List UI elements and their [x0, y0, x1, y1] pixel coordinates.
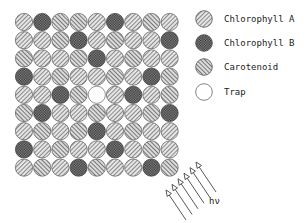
chlorophyll-a-molecule	[125, 141, 142, 158]
chlorophyll-a-swatch-icon	[196, 11, 213, 28]
chlorophyll-b-molecule	[161, 32, 178, 49]
chlorophyll-a-molecule	[143, 86, 160, 103]
chlorophyll-a-molecule	[15, 123, 32, 140]
light-arrow-icon	[190, 168, 210, 198]
chlorophyll-a-molecule	[52, 123, 69, 140]
chlorophyll-b-molecule	[34, 104, 51, 121]
carotenoid-molecule	[161, 86, 178, 103]
carotenoid-molecule	[88, 159, 105, 176]
light-arrow-icon	[196, 162, 216, 192]
chlorophyll-a-molecule	[52, 104, 69, 121]
chlorophyll-a-molecule	[88, 13, 105, 30]
chlorophyll-a-molecule	[88, 141, 105, 158]
chlorophyll-b-molecule	[70, 159, 87, 176]
chlorophyll-b-molecule	[106, 141, 123, 158]
light-arrow-icon	[184, 173, 204, 203]
trap-molecule	[88, 86, 105, 103]
legend-item-chlorophyll-b: Chlorophyll B	[196, 35, 295, 52]
chlorophyll-a-molecule	[161, 13, 178, 30]
legend-label: Carotenoid	[224, 62, 278, 72]
carotenoid-molecule	[161, 68, 178, 85]
chlorophyll-a-molecule	[15, 159, 32, 176]
chlorophyll-a-molecule	[34, 68, 51, 85]
chlorophyll-b-molecule	[88, 50, 105, 67]
chlorophyll-a-molecule	[106, 123, 123, 140]
chlorophyll-a-molecule	[106, 159, 123, 176]
legend: Chlorophyll A Chlorophyll B Carotenoid T…	[196, 11, 295, 101]
carotenoid-molecule	[125, 50, 142, 67]
chlorophyll-a-molecule	[125, 68, 142, 85]
chlorophyll-b-molecule	[106, 13, 123, 30]
chlorophyll-a-molecule	[15, 13, 32, 30]
carotenoid-molecule	[34, 123, 51, 140]
chlorophyll-a-molecule	[161, 141, 178, 158]
carotenoid-molecule	[15, 104, 32, 121]
carotenoid-molecule	[88, 104, 105, 121]
pigment-grid	[15, 13, 178, 176]
legend-label: Chlorophyll A	[224, 14, 295, 24]
chlorophyll-a-molecule	[88, 32, 105, 49]
chlorophyll-a-molecule	[15, 86, 32, 103]
trap-swatch-icon	[196, 84, 213, 101]
carotenoid-molecule	[70, 13, 87, 30]
chlorophyll-b-molecule	[15, 141, 32, 158]
chlorophyll-a-molecule	[106, 50, 123, 67]
chlorophyll-a-molecule	[143, 50, 160, 67]
chlorophyll-a-molecule	[70, 68, 87, 85]
carotenoid-molecule	[52, 141, 69, 158]
light-arrow-icon	[178, 179, 198, 209]
carotenoid-molecule	[125, 123, 142, 140]
chlorophyll-b-molecule	[52, 86, 69, 103]
chlorophyll-b-molecule	[143, 68, 160, 85]
chlorophyll-b-molecule	[143, 159, 160, 176]
chlorophyll-a-molecule	[125, 159, 142, 176]
carotenoid-molecule	[106, 32, 123, 49]
carotenoid-molecule	[143, 104, 160, 121]
carotenoid-molecule	[161, 159, 178, 176]
chlorophyll-b-molecule	[70, 32, 87, 49]
legend-item-carotenoid: Carotenoid	[196, 59, 278, 76]
chlorophyll-b-molecule	[34, 13, 51, 30]
chlorophyll-a-molecule	[15, 32, 32, 49]
carotenoid-molecule	[52, 68, 69, 85]
chlorophyll-a-molecule	[34, 141, 51, 158]
chlorophyll-a-molecule	[125, 13, 142, 30]
chlorophyll-a-molecule	[52, 159, 69, 176]
chlorophyll-b-molecule	[88, 123, 105, 140]
chlorophyll-b-molecule	[15, 68, 32, 85]
chlorophyll-a-molecule	[34, 32, 51, 49]
carotenoid-molecule	[70, 123, 87, 140]
chlorophyll-a-molecule	[34, 50, 51, 67]
carotenoid-molecule	[70, 50, 87, 67]
light-label: hν	[209, 196, 220, 206]
legend-item-chlorophyll-a: Chlorophyll A	[196, 11, 295, 28]
carotenoid-molecule	[143, 13, 160, 30]
photosynthetic-unit-diagram: Chlorophyll A Chlorophyll B Carotenoid T…	[0, 0, 307, 223]
chlorophyll-a-molecule	[125, 32, 142, 49]
chlorophyll-a-molecule	[70, 141, 87, 158]
light-arrow-icon	[172, 184, 192, 214]
chlorophyll-b-swatch-icon	[196, 35, 213, 52]
legend-label: Chlorophyll B	[224, 38, 294, 48]
legend-item-trap: Trap	[196, 84, 246, 101]
carotenoid-molecule	[34, 159, 51, 176]
legend-label: Trap	[224, 87, 246, 97]
light-arrow-icon	[166, 190, 186, 220]
chlorophyll-a-molecule	[161, 50, 178, 67]
chlorophyll-a-molecule	[70, 104, 87, 121]
carotenoid-swatch-icon	[196, 59, 213, 76]
chlorophyll-a-molecule	[106, 86, 123, 103]
chlorophyll-a-molecule	[143, 32, 160, 49]
carotenoid-molecule	[52, 13, 69, 30]
chlorophyll-b-molecule	[161, 104, 178, 121]
carotenoid-molecule	[15, 50, 32, 67]
chlorophyll-a-molecule	[161, 123, 178, 140]
carotenoid-molecule	[143, 141, 160, 158]
chlorophyll-a-molecule	[143, 123, 160, 140]
carotenoid-molecule	[70, 86, 87, 103]
chlorophyll-a-molecule	[52, 50, 69, 67]
chlorophyll-a-molecule	[106, 104, 123, 121]
chlorophyll-a-molecule	[125, 104, 142, 121]
chlorophyll-b-molecule	[125, 86, 142, 103]
carotenoid-molecule	[52, 32, 69, 49]
